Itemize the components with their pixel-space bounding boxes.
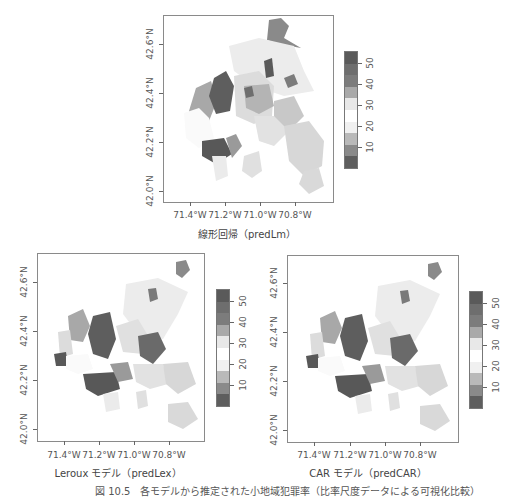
x-tick-label: 71.2°W <box>208 210 241 220</box>
y-tick-label: 42.0°N <box>269 414 279 445</box>
y-tick <box>33 380 37 381</box>
y-tick <box>159 93 163 94</box>
y-tick <box>283 430 287 431</box>
x-tick-label: 71.0°W <box>368 450 401 460</box>
x-tick <box>99 441 100 445</box>
y-tick-label: 42.6°N <box>19 266 29 297</box>
colorbar-label: 10 <box>238 379 248 390</box>
y-tick <box>33 331 37 332</box>
panel-title: CAR モデル（predCAR） <box>309 465 426 480</box>
choropleth-map <box>38 254 204 441</box>
x-tick-label: 71.4°W <box>47 450 80 460</box>
choropleth-map <box>288 256 458 442</box>
colorbar-label: 20 <box>491 360 501 371</box>
x-tick-label: 70.8°W <box>152 450 185 460</box>
y-tick-label: 42.2°N <box>145 126 155 157</box>
colorbar-label: 30 <box>365 99 375 110</box>
y-tick-label: 42.0°N <box>145 175 155 206</box>
y-tick-label: 42.4°N <box>269 316 279 347</box>
y-tick <box>159 142 163 143</box>
y-tick <box>283 381 287 382</box>
colorbar-tick <box>358 147 362 148</box>
colorbar-label: 30 <box>238 337 248 348</box>
colorbar-label: 40 <box>238 316 248 327</box>
colorbar-tick <box>230 385 234 386</box>
colorbar <box>344 51 358 169</box>
map-frame <box>37 253 205 442</box>
colorbar-tick <box>483 366 487 367</box>
colorbar-label: 20 <box>365 120 375 131</box>
y-tick <box>159 191 163 192</box>
y-tick-label: 42.2°N <box>269 365 279 396</box>
y-tick-label: 42.0°N <box>19 413 29 444</box>
colorbar <box>469 291 483 409</box>
colorbar-tick <box>230 343 234 344</box>
x-tick <box>225 202 226 206</box>
y-tick-label: 42.4°N <box>145 77 155 108</box>
x-tick <box>385 442 386 446</box>
colorbar-tick <box>230 364 234 365</box>
x-tick <box>169 441 170 445</box>
y-tick <box>33 429 37 430</box>
y-tick-label: 42.2°N <box>19 364 29 395</box>
y-tick-label: 42.6°N <box>269 267 279 298</box>
x-tick <box>260 202 261 206</box>
colorbar <box>216 289 230 407</box>
colorbar-label: 20 <box>238 358 248 369</box>
colorbar-tick <box>358 84 362 85</box>
x-tick <box>64 441 65 445</box>
colorbar-tick <box>358 63 362 64</box>
y-tick <box>283 332 287 333</box>
colorbar-label: 40 <box>491 318 501 329</box>
colorbar-label: 10 <box>491 381 501 392</box>
colorbar-tick <box>483 345 487 346</box>
colorbar-tick <box>483 387 487 388</box>
x-tick-label: 71.0°W <box>243 210 276 220</box>
y-tick <box>283 283 287 284</box>
colorbar-tick <box>358 105 362 106</box>
panel-title: Leroux モデル（predLex） <box>54 465 181 480</box>
x-tick-label: 71.4°W <box>297 450 330 460</box>
y-tick-label: 42.4°N <box>19 315 29 346</box>
x-tick <box>134 441 135 445</box>
colorbar-label: 50 <box>238 295 248 306</box>
x-tick-label: 71.0°W <box>117 450 150 460</box>
y-tick <box>33 282 37 283</box>
panel-title: 線形回帰（predLm） <box>198 226 296 241</box>
y-tick-label: 42.6°N <box>145 28 155 59</box>
x-tick <box>350 442 351 446</box>
choropleth-map <box>164 16 333 202</box>
colorbar-label: 10 <box>365 141 375 152</box>
colorbar-tick <box>358 126 362 127</box>
colorbar-label: 50 <box>491 297 501 308</box>
x-tick-label: 71.4°W <box>173 210 206 220</box>
x-tick <box>314 442 315 446</box>
colorbar-tick <box>230 322 234 323</box>
x-tick-label: 70.8°W <box>278 210 311 220</box>
y-tick <box>159 44 163 45</box>
colorbar-label: 40 <box>365 78 375 89</box>
x-tick-label: 71.2°W <box>82 450 115 460</box>
figure-caption: 図 10.5 各モデルから推定された小地域犯罪率（比率尺度データによる可視化比較… <box>95 483 480 498</box>
colorbar-tick <box>483 324 487 325</box>
map-frame <box>287 255 459 443</box>
colorbar-tick <box>230 301 234 302</box>
x-tick-label: 71.2°W <box>333 450 366 460</box>
x-tick <box>295 202 296 206</box>
colorbar-label: 50 <box>365 57 375 68</box>
colorbar-label: 30 <box>491 339 501 350</box>
x-tick <box>420 442 421 446</box>
x-tick-label: 70.8°W <box>403 450 436 460</box>
map-frame <box>163 15 334 203</box>
colorbar-tick <box>483 303 487 304</box>
x-tick <box>190 202 191 206</box>
